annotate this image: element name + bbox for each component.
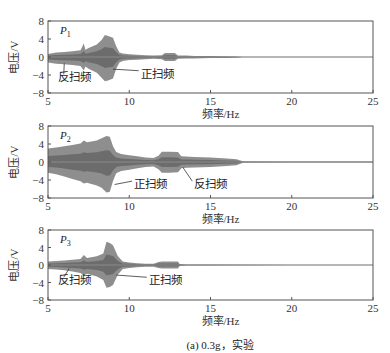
y-tick-label: −4	[32, 174, 44, 186]
y-axis-label: 电压/V	[8, 248, 20, 281]
y-tick-label: 4	[39, 242, 45, 254]
y-tick-label: 8	[39, 120, 45, 132]
panel-p3: 840−4−8510152025频率/Hz电压/VP3反扫频正扫频	[8, 224, 379, 327]
annotation-leader-line	[113, 69, 139, 71]
annotation-label: 正扫频	[141, 67, 175, 80]
annotation-label: 正扫频	[149, 273, 183, 286]
annotation-leader-line	[115, 181, 133, 184]
x-tick-label: 10	[124, 95, 136, 107]
x-tick-label: 5	[45, 302, 51, 314]
y-tick-label: −8	[32, 87, 44, 99]
x-tick-label: 15	[205, 95, 217, 107]
y-tick-label: 4	[39, 138, 45, 150]
y-axis-label: 电压/V	[8, 40, 20, 73]
annotation-label: 反扫频	[58, 273, 92, 286]
x-axis-label: 频率/Hz	[202, 212, 240, 225]
figure-caption: (a) 0.3g，实验	[186, 338, 253, 352]
y-tick-label: −8	[32, 294, 44, 306]
annotation-label: 反扫频	[58, 70, 92, 83]
x-tick-label: 5	[45, 95, 51, 107]
y-tick-label: 0	[39, 51, 45, 63]
y-tick-label: 8	[39, 15, 45, 27]
panel-label: P2	[59, 129, 71, 144]
x-tick-label: 20	[286, 302, 298, 314]
y-tick-label: 8	[39, 224, 45, 236]
x-tick-label: 15	[205, 200, 217, 212]
annotation-leader-line	[116, 275, 147, 277]
annotation-label: 反扫频	[194, 177, 228, 190]
x-tick-label: 10	[124, 200, 136, 212]
x-tick-label: 25	[368, 200, 380, 212]
y-tick-label: −4	[32, 69, 44, 81]
annotation-label: 正扫频	[134, 177, 168, 190]
x-tick-label: 15	[205, 302, 217, 314]
y-tick-label: 0	[39, 156, 45, 168]
x-tick-label: 20	[286, 95, 298, 107]
y-tick-label: −4	[32, 277, 44, 289]
x-axis-label: 频率/Hz	[202, 314, 240, 327]
x-tick-label: 5	[45, 200, 51, 212]
panel-p2: 840−4−8510152025频率/Hz电压/VP2正扫频反扫频	[8, 120, 379, 225]
x-tick-label: 25	[368, 302, 380, 314]
x-tick-label: 20	[286, 200, 298, 212]
panel-label: P3	[59, 233, 71, 248]
figure: 840−4−8510152025频率/Hz电压/VP1反扫频正扫频 840−4−…	[0, 0, 390, 353]
y-tick-label: −8	[32, 192, 44, 204]
x-tick-label: 25	[368, 95, 380, 107]
x-tick-label: 10	[124, 302, 136, 314]
y-tick-label: 0	[39, 259, 45, 271]
panel-p1: 840−4−8510152025频率/Hz电压/VP1反扫频正扫频	[8, 15, 379, 120]
panel-label: P1	[59, 24, 71, 39]
annotation-leader-line	[183, 167, 192, 181]
y-axis-label: 电压/V	[8, 145, 20, 178]
x-axis-label: 频率/Hz	[202, 107, 240, 120]
signal-core	[48, 150, 373, 176]
y-tick-label: 4	[39, 33, 45, 45]
